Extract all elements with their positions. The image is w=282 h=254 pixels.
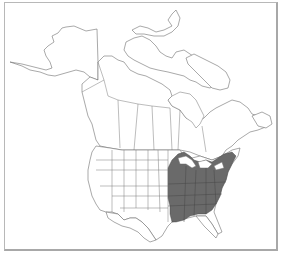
ellesmere-island (132, 10, 180, 36)
north-america-map (0, 0, 282, 254)
alaska-outline (10, 26, 98, 80)
